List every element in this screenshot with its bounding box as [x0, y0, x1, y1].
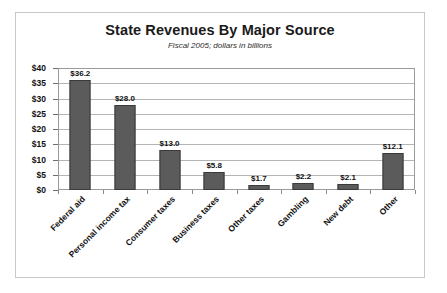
bar-slot: $28.0	[103, 68, 148, 190]
x-axis-category-label: Other	[377, 194, 400, 217]
chart-title: State Revenues By Major Source	[16, 22, 424, 39]
y-axis: $0$5$10$15$20$25$30$35$40	[0, 68, 58, 190]
x-axis-category-label: Other taxes	[226, 194, 266, 234]
bar-slot: $1.7	[237, 68, 282, 190]
bar[interactable]	[70, 80, 91, 190]
bar-slot: $12.1	[370, 68, 415, 190]
bar[interactable]	[159, 150, 180, 190]
x-axis-category-label: Business taxes	[170, 194, 221, 245]
bar[interactable]	[114, 105, 135, 190]
bar-value-label: $12.1	[383, 142, 403, 151]
y-axis-tick-label: $5	[37, 170, 46, 180]
bar[interactable]	[293, 183, 314, 190]
bar-value-label: $5.8	[206, 161, 222, 170]
bar-slot: $5.8	[192, 68, 237, 190]
chart-subtitle: Fiscal 2005; dollars in billions	[16, 40, 424, 51]
x-axis-labels: Federal aidPersonal income taxConsumer t…	[58, 194, 415, 264]
y-axis-tick-label: $20	[32, 124, 46, 134]
bars-layer: $36.2$28.0$13.0$5.8$1.7$2.2$2.1$12.1	[58, 68, 415, 190]
bar-slot: $36.2	[58, 68, 103, 190]
x-axis-category-label: Gambling	[276, 194, 311, 229]
x-axis-tick-mark	[415, 190, 416, 194]
y-axis-tick-label: $40	[32, 63, 46, 73]
bar-value-label: $2.2	[296, 172, 312, 181]
bar[interactable]	[204, 172, 225, 190]
y-axis-tick-label: $30	[32, 94, 46, 104]
bar-value-label: $2.1	[340, 173, 356, 182]
y-axis-tick-label: $0	[37, 185, 46, 195]
y-axis-tick-label: $10	[32, 155, 46, 165]
bar-value-label: $13.0	[160, 139, 180, 148]
bar-slot: $2.1	[326, 68, 371, 190]
bar-slot: $2.2	[281, 68, 326, 190]
bar-value-label: $28.0	[115, 94, 135, 103]
bar-value-label: $1.7	[251, 174, 267, 183]
bar-value-label: $36.2	[70, 69, 90, 78]
bar-slot: $13.0	[147, 68, 192, 190]
y-axis-tick-label: $35	[32, 78, 46, 88]
title-block: State Revenues By Major Source Fiscal 20…	[16, 22, 424, 51]
x-axis-category-label: New debt	[321, 194, 355, 228]
bar[interactable]	[382, 153, 403, 190]
y-axis-tick-label: $15	[32, 139, 46, 149]
y-axis-tick-label: $25	[32, 109, 46, 119]
